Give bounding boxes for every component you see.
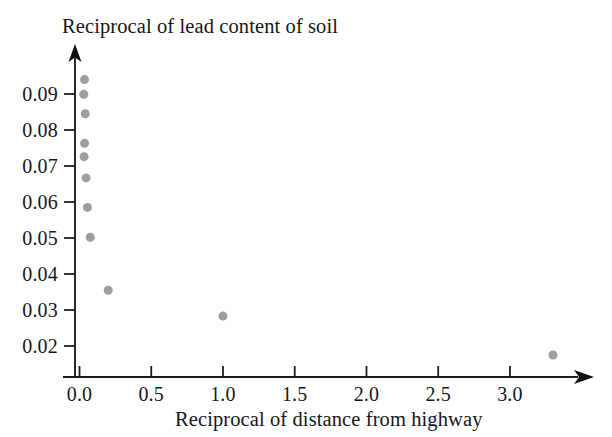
data-point <box>83 203 92 212</box>
y-axis-ticks <box>64 94 75 346</box>
x-axis-tick-label: 2.5 <box>408 384 468 404</box>
data-points-layer <box>79 75 557 359</box>
x-axis-tick-label: 0.5 <box>121 384 181 404</box>
x-axis-tick-label: 3.0 <box>480 384 540 404</box>
data-point <box>80 75 89 84</box>
y-axis-tick-label: 0.04 <box>0 264 58 284</box>
data-point <box>80 152 89 161</box>
y-axis-tick-label: 0.07 <box>0 156 58 176</box>
data-point <box>79 90 88 99</box>
data-point <box>104 286 113 295</box>
data-point <box>82 173 91 182</box>
y-axis-tick-label: 0.06 <box>0 192 58 212</box>
y-axis-tick-label: 0.08 <box>0 120 58 140</box>
data-point <box>549 351 558 360</box>
x-axis-label: Reciprocal of distance from highway <box>175 409 482 430</box>
data-point <box>81 109 90 118</box>
axes-group <box>63 44 594 384</box>
x-axis-tick-label: 2.0 <box>336 384 396 404</box>
data-point <box>218 312 227 321</box>
data-point <box>80 139 89 148</box>
y-axis-tick-label: 0.02 <box>0 336 58 356</box>
y-axis-tick-label: 0.03 <box>0 300 58 320</box>
x-axis-ticks <box>80 366 510 377</box>
data-point <box>86 233 95 242</box>
y-axis-tick-label: 0.05 <box>0 228 58 248</box>
x-axis-tick-label: 1.0 <box>193 384 253 404</box>
plot-canvas <box>0 0 612 437</box>
scatter-plot-figure: Reciprocal of lead content of soil 0.020… <box>0 0 612 437</box>
x-axis-tick-label: 0.0 <box>50 384 110 404</box>
x-axis-tick-label: 1.5 <box>265 384 325 404</box>
y-axis-tick-label: 0.09 <box>0 84 58 104</box>
